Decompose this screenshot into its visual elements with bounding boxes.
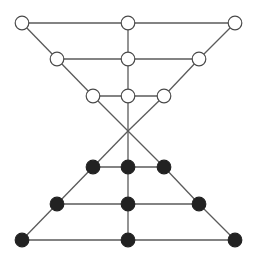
black-node-b3 xyxy=(157,160,171,174)
black-node-b8 xyxy=(121,233,135,247)
edge-x-b3 xyxy=(128,131,164,167)
edge-w3-w6 xyxy=(199,23,235,59)
white-node-w7 xyxy=(86,89,100,103)
white-node-w9 xyxy=(157,89,171,103)
white-node-w1 xyxy=(15,16,29,30)
edge-w9-x xyxy=(128,96,164,131)
black-node-b9 xyxy=(228,233,242,247)
edge-b6-b9 xyxy=(199,204,235,240)
black-node-b2 xyxy=(121,160,135,174)
edge-w4-w7 xyxy=(57,59,93,96)
black-node-b4 xyxy=(50,197,64,211)
edge-b4-b7 xyxy=(22,204,57,240)
black-node-b5 xyxy=(121,197,135,211)
white-node-w2 xyxy=(121,16,135,30)
black-node-b7 xyxy=(15,233,29,247)
white-node-w8 xyxy=(121,89,135,103)
hourglass-graph-diagram xyxy=(0,0,259,262)
edge-x-b1 xyxy=(93,131,128,167)
black-node-b1 xyxy=(86,160,100,174)
edge-w7-x xyxy=(93,96,128,131)
white-node-w4 xyxy=(50,52,64,66)
edge-b1-b4 xyxy=(57,167,93,204)
edge-w6-w9 xyxy=(164,59,199,96)
black-node-b6 xyxy=(192,197,206,211)
white-node-w6 xyxy=(192,52,206,66)
edge-b3-b6 xyxy=(164,167,199,204)
white-node-w5 xyxy=(121,52,135,66)
edge-w1-w4 xyxy=(22,23,57,59)
white-node-w3 xyxy=(228,16,242,30)
